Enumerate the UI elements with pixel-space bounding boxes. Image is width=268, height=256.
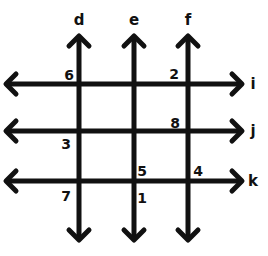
horizontal-line-i [6,74,242,94]
line-label-i: i [250,77,255,92]
angle-number-5: 5 [137,164,147,178]
angle-number-1: 1 [137,191,147,205]
vertical-line-f [178,36,198,240]
line-label-k: k [248,174,258,189]
angle-number-6: 6 [64,68,74,82]
line-intersection-diagram: defijk62835471 [0,0,268,256]
vertical-line-e [124,36,144,240]
line-label-e: e [129,13,139,28]
line-label-d: d [74,13,85,28]
angle-number-3: 3 [61,137,71,151]
horizontal-line-k [6,171,242,191]
angle-number-8: 8 [170,116,180,130]
horizontal-line-j [6,121,242,141]
angle-number-4: 4 [193,164,203,178]
angle-number-7: 7 [61,189,71,203]
line-label-j: j [250,124,255,139]
line-label-f: f [185,13,192,28]
diagram-lines [0,0,268,256]
angle-number-2: 2 [169,67,179,81]
